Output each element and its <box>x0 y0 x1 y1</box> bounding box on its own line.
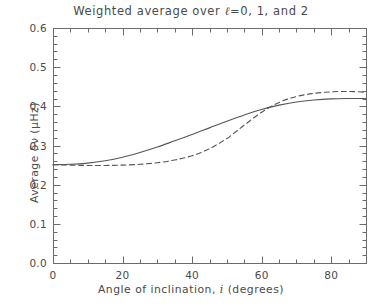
plot-frame <box>54 29 367 264</box>
plot-area <box>0 0 382 307</box>
series-line-solid <box>53 98 366 164</box>
series-line-dashed <box>53 91 366 165</box>
y-tick-label: 0.1 <box>6 218 47 230</box>
x-tick-label: 20 <box>116 269 130 281</box>
x-tick-label: 0 <box>50 269 57 281</box>
y-tick-label: 0.6 <box>6 22 47 34</box>
x-tick-label: 40 <box>185 269 199 281</box>
y-tick-label: 0.5 <box>6 61 47 73</box>
y-tick-label: 0.2 <box>6 179 47 191</box>
y-tick-label: 0.4 <box>6 100 47 112</box>
x-axis-title: Angle of inclination, i (degrees) <box>0 283 382 296</box>
y-axis-title: Average δν (μHz) <box>28 53 41 253</box>
x-tick-label: 60 <box>255 269 269 281</box>
y-tick-label: 0.0 <box>6 257 47 269</box>
y-tick-label: 0.3 <box>6 140 47 152</box>
x-axis-title-prefix: Angle of inclination, <box>98 283 220 296</box>
x-axis-title-suffix: (degrees) <box>224 283 284 296</box>
chart-figure: Weighted average over ℓ=0, 1, and 2 0.00… <box>0 0 382 307</box>
x-tick-label: 80 <box>324 269 338 281</box>
